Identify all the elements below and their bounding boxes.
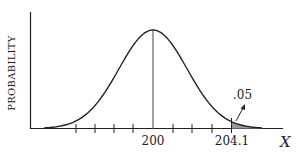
normal-distribution-chart: PROBABILITY 200 204.1 X .05 bbox=[0, 0, 307, 156]
x-axis-label: X bbox=[280, 133, 291, 151]
tail-area-label: .05 bbox=[233, 88, 252, 102]
tick-label-mean: 200 bbox=[142, 134, 165, 148]
tick-label-critical: 204.1 bbox=[215, 134, 249, 148]
arrow-head-icon bbox=[241, 104, 246, 110]
x-ticks bbox=[76, 118, 232, 133]
y-axis-label: PROBABILITY bbox=[4, 30, 18, 115]
annotation-arrow bbox=[236, 108, 243, 121]
chart-plot bbox=[0, 0, 307, 156]
